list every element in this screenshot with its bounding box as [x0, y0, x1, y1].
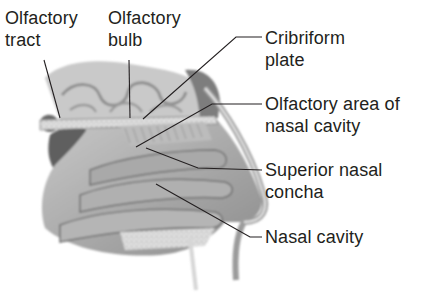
label-line: Nasal cavity: [265, 226, 363, 248]
label-superior-nasal-concha: Superior nasal concha: [265, 159, 382, 203]
label-olfactory-area: Olfactory area of nasal cavity: [265, 93, 400, 137]
label-line: bulb: [108, 29, 181, 51]
label-line: Olfactory area of: [265, 93, 400, 115]
label-olfactory-bulb: Olfactory bulb: [108, 7, 181, 51]
illustration-body: [40, 61, 265, 290]
label-line: Cribriform: [265, 27, 345, 49]
label-line: Olfactory: [5, 7, 78, 29]
label-line: plate: [265, 49, 345, 71]
label-line: concha: [265, 181, 382, 203]
olfactory-diagram: Olfactory tract Olfactory bulb Cribrifor…: [0, 0, 422, 308]
label-nasal-cavity: Nasal cavity: [265, 226, 363, 248]
label-line: Superior nasal: [265, 159, 382, 181]
label-cribriform-plate: Cribriform plate: [265, 27, 345, 71]
label-line: Olfactory: [108, 7, 181, 29]
label-line: nasal cavity: [265, 115, 400, 137]
label-olfactory-tract: Olfactory tract: [5, 7, 78, 51]
label-line: tract: [5, 29, 78, 51]
